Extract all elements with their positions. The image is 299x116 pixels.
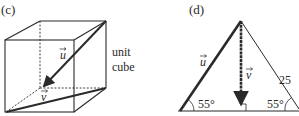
side-length-label: 25 xyxy=(279,73,291,87)
panel-c: (c) u v xyxy=(1,2,135,112)
angle-right-label: 55° xyxy=(267,97,284,111)
unit-cube-label-line2: cube xyxy=(112,60,135,74)
panel-c-label: (c) xyxy=(1,2,15,17)
cube-edge xyxy=(5,21,40,40)
angle-left-label: 55° xyxy=(198,97,215,111)
angle-arc-left-icon xyxy=(188,100,194,112)
panel-d: (d) u v 25 55° 55° xyxy=(178,2,299,111)
vector-u-arrow xyxy=(44,21,106,86)
cube-hidden-edges xyxy=(6,21,106,112)
vector-u-label-d: u xyxy=(200,55,207,70)
angle-arc-right-icon xyxy=(285,98,291,111)
vector-u-label-c: u xyxy=(60,48,67,63)
unit-cube-label-line1: unit xyxy=(112,45,131,59)
triangle-right-side xyxy=(241,21,299,109)
vector-v-line xyxy=(6,88,106,112)
right-angle-mark-icon xyxy=(241,104,246,111)
diagram-canvas: (c) u v xyxy=(0,0,299,116)
cube-visible-edges xyxy=(5,21,106,112)
panel-d-label: (d) xyxy=(189,2,204,17)
vector-v-label-d: v xyxy=(246,68,253,83)
